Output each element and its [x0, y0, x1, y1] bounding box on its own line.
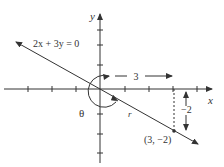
vertical-dimension-label: −2	[181, 104, 192, 115]
angle-arc	[88, 75, 116, 107]
radius-label: r	[128, 109, 132, 119]
equation-label: 2x + 3y = 0	[33, 38, 79, 49]
x-axis-label: x	[207, 94, 213, 106]
coordinate-plane: x y 2x + 3y = 0 (3, −2) 3 −2 θ r	[0, 0, 224, 167]
diagram-canvas: x y 2x + 3y = 0 (3, −2) 3 −2 θ r	[0, 0, 224, 167]
equation-line	[16, 42, 198, 144]
point-label: (3, −2)	[144, 134, 171, 146]
horizontal-dimension-label: 3	[134, 71, 139, 82]
x-axis	[4, 86, 212, 92]
angle-label: θ	[79, 107, 84, 119]
y-axis-label: y	[89, 10, 95, 22]
